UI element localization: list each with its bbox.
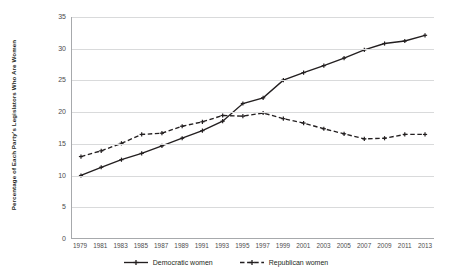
data-point-marker bbox=[119, 158, 123, 162]
y-axis-tick-label: 20 bbox=[40, 108, 66, 116]
x-axis-tick-label: 1983 bbox=[113, 241, 127, 250]
legend-swatch-solid bbox=[123, 258, 149, 267]
y-axis-title: Percentage of Each Party's Legislators W… bbox=[8, 5, 20, 245]
x-axis-tick-label: 1989 bbox=[174, 241, 188, 250]
data-point-marker bbox=[140, 132, 144, 136]
gridline bbox=[72, 80, 434, 81]
series-line-democratic-women bbox=[81, 35, 425, 175]
y-axis-tick-label: 5 bbox=[40, 203, 66, 211]
data-point-marker bbox=[342, 132, 346, 136]
data-point-marker bbox=[403, 132, 407, 136]
data-point-marker bbox=[322, 127, 326, 131]
data-point-marker bbox=[99, 149, 103, 153]
data-point-marker bbox=[160, 131, 164, 135]
y-axis-tick-label: 10 bbox=[40, 172, 66, 180]
legend-item[interactable]: Republican women bbox=[239, 258, 329, 267]
data-point-marker bbox=[302, 70, 306, 74]
gridline bbox=[72, 49, 434, 50]
data-point-marker bbox=[302, 121, 306, 125]
x-axis-tick-label: 1999 bbox=[276, 241, 290, 250]
gridline bbox=[72, 207, 434, 208]
y-axis-tick-label: 0 bbox=[40, 235, 66, 243]
data-point-marker bbox=[382, 41, 386, 45]
data-point-marker bbox=[79, 154, 83, 158]
data-point-marker bbox=[241, 114, 245, 118]
data-point-marker bbox=[200, 120, 204, 124]
legend-label: Democratic women bbox=[153, 258, 213, 267]
data-point-marker bbox=[180, 124, 184, 128]
data-point-marker bbox=[99, 165, 103, 169]
x-axis-tick-label: 1985 bbox=[134, 241, 148, 250]
y-axis-tick-labels: 05101520253035 bbox=[36, 0, 66, 274]
gridline bbox=[72, 144, 434, 145]
chart-legend: Democratic womenRepublican women bbox=[0, 258, 451, 267]
data-point-marker bbox=[140, 151, 144, 155]
x-axis-tick-label: 2007 bbox=[357, 241, 371, 250]
x-axis-tick-label: 2011 bbox=[398, 241, 412, 250]
x-axis-tick-label: 1979 bbox=[73, 241, 87, 250]
data-point-marker bbox=[382, 136, 386, 140]
data-point-marker bbox=[423, 33, 427, 37]
legend-swatch-dashed bbox=[239, 258, 265, 267]
data-point-marker bbox=[180, 136, 184, 140]
data-point-marker bbox=[423, 132, 427, 136]
y-axis-tick-label: 35 bbox=[40, 13, 66, 21]
x-axis-tick-label: 1991 bbox=[195, 241, 209, 250]
x-axis-tick-label: 1997 bbox=[256, 241, 270, 250]
y-axis-tick-label: 15 bbox=[40, 140, 66, 148]
gridline bbox=[72, 112, 434, 113]
gridline bbox=[72, 176, 434, 177]
x-axis-tick-label: 2009 bbox=[377, 241, 391, 250]
data-point-marker bbox=[221, 113, 225, 117]
gridline bbox=[72, 17, 434, 18]
x-axis-tick-label: 1995 bbox=[235, 241, 249, 250]
x-axis-tick-label: 2005 bbox=[337, 241, 351, 250]
chart-figure: Percentage of Each Party's Legislators W… bbox=[0, 0, 451, 274]
y-axis-tick-label: 30 bbox=[40, 45, 66, 53]
x-axis-tick-label: 2003 bbox=[316, 241, 330, 250]
x-axis-tick-label: 1987 bbox=[154, 241, 168, 250]
data-point-marker bbox=[403, 39, 407, 43]
legend-item[interactable]: Democratic women bbox=[123, 258, 213, 267]
series-canvas bbox=[72, 17, 434, 238]
x-axis-tick-label: 1981 bbox=[93, 241, 107, 250]
data-point-marker bbox=[322, 64, 326, 68]
x-axis-tick-label: 2013 bbox=[418, 241, 432, 250]
x-axis-tick-labels: 1979198119831985198719891991199319951997… bbox=[71, 241, 434, 257]
series-line-republican-women bbox=[81, 113, 425, 157]
x-axis-tick-label: 2001 bbox=[296, 241, 310, 250]
data-point-marker bbox=[281, 117, 285, 121]
data-point-marker bbox=[362, 137, 366, 141]
x-axis-tick-label: 1993 bbox=[215, 241, 229, 250]
data-point-marker bbox=[200, 129, 204, 133]
data-point-marker bbox=[342, 56, 346, 60]
plot-area bbox=[71, 17, 434, 239]
y-axis-tick-label: 25 bbox=[40, 76, 66, 84]
legend-label: Republican women bbox=[269, 258, 329, 267]
